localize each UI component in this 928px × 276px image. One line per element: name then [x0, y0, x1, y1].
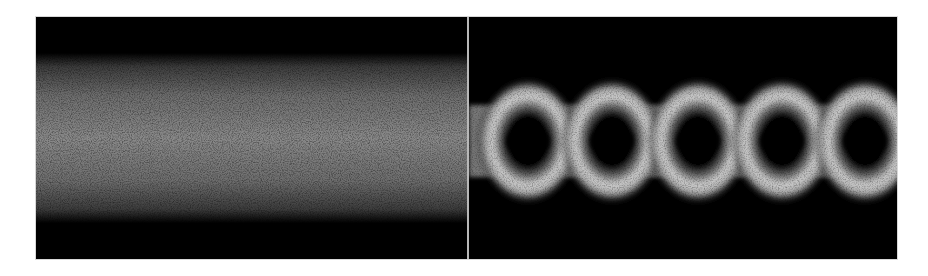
noise-texture [36, 17, 467, 259]
left-panel-uniform-band [36, 17, 467, 259]
right-panel-ring-chain [469, 17, 898, 259]
ring-chain [469, 17, 898, 259]
image-frame [35, 16, 898, 260]
